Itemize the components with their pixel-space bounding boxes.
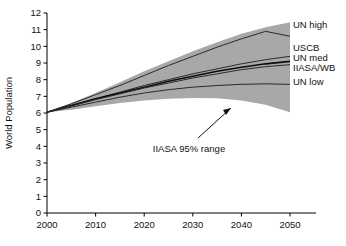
y-axis-title: World Population [3,77,14,149]
x-tick-label: 2050 [279,219,300,230]
chart-background [0,0,346,246]
annotation-label: IIASA 95% range [153,143,225,154]
world-population-projection-chart: 0123456789101112 20002010202020302040205… [0,0,346,246]
y-tick-label: 6 [36,107,41,118]
x-tick-label: 2010 [85,219,106,230]
x-tick-label: 2030 [182,219,203,230]
y-tick-label: 10 [30,41,41,52]
y-tick-label: 0 [36,207,41,218]
series-label-un-low: UN low [293,76,324,87]
y-tick-label: 8 [36,74,41,85]
y-tick-label: 12 [30,7,41,18]
x-tick-label: 2040 [231,219,252,230]
y-tick-label: 1 [36,191,41,202]
chart-container: 0123456789101112 20002010202020302040205… [0,0,346,246]
y-tick-label: 5 [36,124,41,135]
y-tick-label: 4 [36,141,41,152]
x-tick-label: 2020 [134,219,155,230]
y-tick-label: 2 [36,174,41,185]
series-label-un-high: UN high [293,19,327,30]
x-tick-label: 2000 [36,219,57,230]
y-tick-label: 11 [31,24,41,35]
y-tick-label: 9 [36,57,41,68]
series-label-iiasa-wb: IIASA/WB [293,62,335,73]
y-tick-label: 3 [36,157,41,168]
y-tick-label: 7 [36,91,41,102]
